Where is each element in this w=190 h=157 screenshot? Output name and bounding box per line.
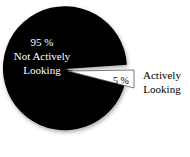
main-line2-label: Looking [23, 64, 61, 76]
slice-line1-label: Actively [143, 69, 181, 81]
main-line1-label: Not Actively [14, 50, 71, 62]
main-pct-label: 95 % [31, 36, 54, 48]
slice-line2-label: Looking [143, 83, 181, 95]
slice-pct-label: 5 % [113, 75, 129, 86]
pie-slice-not-actively-looking [3, 6, 127, 130]
pie-chart: 95 % Not Actively Looking 5 % Actively L… [0, 0, 190, 157]
